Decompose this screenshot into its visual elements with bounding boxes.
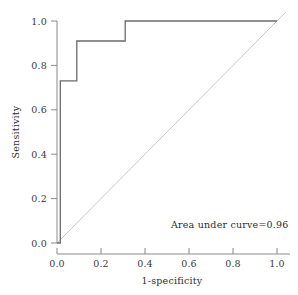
roc-chart-figure: 1.0 0.8 0.6 0.4 0.2 0.0 0.0 0.2 0.4 0.6 …: [0, 0, 298, 295]
chance-diagonal-line: [57, 12, 286, 243]
x-tick-label-0-8: 0.8: [225, 258, 241, 269]
y-axis-tick-labels: 1.0 0.8 0.6 0.4 0.2 0.0: [31, 16, 47, 249]
y-tick-label-0-2: 0.2: [31, 193, 47, 204]
y-axis-ticks: [51, 21, 57, 243]
auc-annotation-label: Area under curve=0.96: [170, 219, 289, 230]
x-tick-label-0-4: 0.4: [137, 258, 153, 269]
x-tick-label-0-0: 0.0: [49, 258, 65, 269]
y-tick-label-1-0: 1.0: [31, 16, 47, 27]
y-tick-label-0-4: 0.4: [31, 149, 47, 160]
x-axis-tick-labels: 0.0 0.2 0.4 0.6 0.8 1.0: [49, 258, 285, 269]
y-tick-label-0-0: 0.0: [31, 238, 47, 249]
x-tick-label-0-2: 0.2: [93, 258, 109, 269]
y-axis-title: Sensitivity: [10, 105, 21, 158]
x-axis-ticks: [57, 248, 277, 254]
y-tick-label-0-8: 0.8: [31, 60, 47, 71]
x-axis-title: 1-specificity: [142, 275, 203, 286]
plot-canvas: 1.0 0.8 0.6 0.4 0.2 0.0 0.0 0.2 0.4 0.6 …: [0, 0, 298, 295]
y-tick-label-0-6: 0.6: [31, 104, 47, 115]
x-tick-label-1-0: 1.0: [269, 258, 285, 269]
x-tick-label-0-6: 0.6: [181, 258, 197, 269]
